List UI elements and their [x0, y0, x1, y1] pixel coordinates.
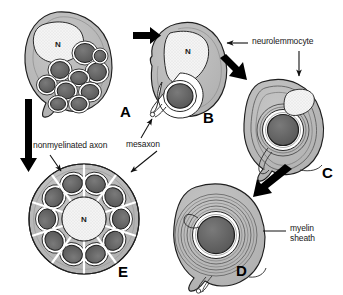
panel-letter-a: A	[120, 104, 131, 119]
svg-text:N: N	[81, 215, 87, 224]
label-neurolemmocyte: neurolemmocyte	[252, 37, 313, 47]
panel-d-cell	[174, 184, 266, 293]
arrow-mesaxon-to-e	[131, 151, 157, 172]
label-myelin-sheath-line2: sheath	[290, 234, 315, 244]
panel-b-nucleus-label: N	[185, 47, 191, 56]
panel-letter-d: D	[236, 263, 247, 278]
panel-letter-b: B	[203, 110, 214, 125]
panel-e-cell: N	[16, 152, 153, 285]
arrow-nonmyelinated-axon-to-e	[50, 155, 61, 171]
arrow-a-to-e	[20, 99, 37, 172]
panel-a-nucleus-label: N	[55, 40, 61, 49]
label-nonmyelinated-axon: nonmyelinated axon	[33, 141, 107, 151]
panel-a-cell: N	[25, 12, 112, 117]
micrograph-figure: N	[0, 0, 343, 295]
arrow-mesaxon-to-b	[141, 119, 152, 138]
panel-b-cell: N	[150, 22, 226, 118]
panel-e-axon-ring: N	[16, 152, 153, 285]
label-mesaxon: mesaxon	[126, 140, 160, 150]
panel-letter-c: C	[322, 165, 333, 180]
panel-letter-e: E	[118, 264, 128, 279]
